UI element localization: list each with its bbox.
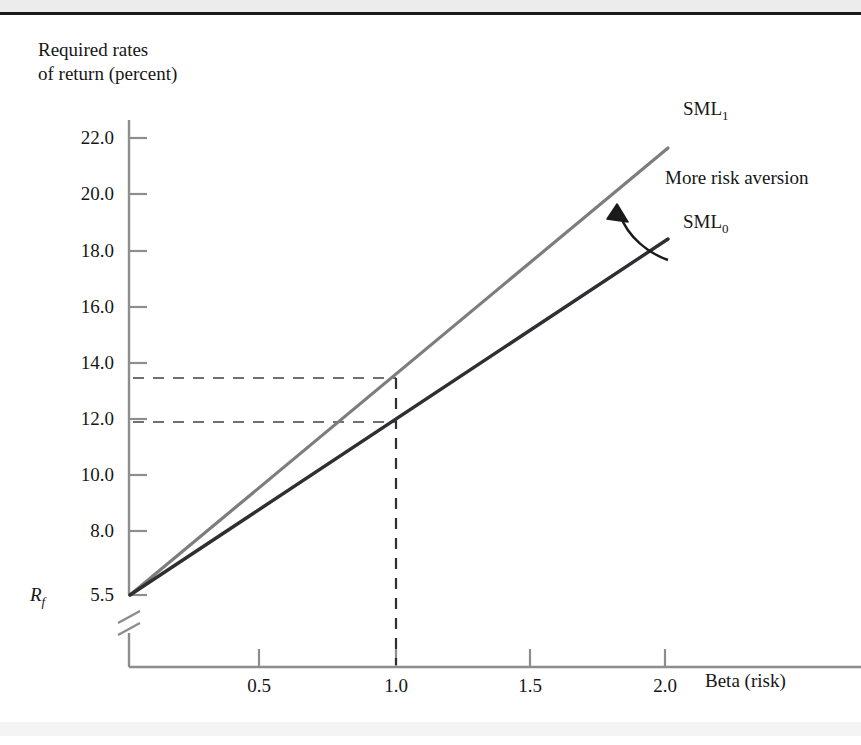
- sml0-line: [130, 239, 668, 595]
- figure-page: Required ratesof return (percent) 22.0 2…: [0, 0, 861, 745]
- axes-group: [118, 120, 861, 667]
- x-tick-label-1-5: 1.5: [500, 675, 560, 697]
- reference-lines-group: [133, 378, 396, 665]
- y-tick-label-10: 10.0: [52, 464, 114, 486]
- x-axis-title: Beta (risk): [705, 669, 786, 693]
- series-label-sml0-sub: 0: [722, 221, 729, 236]
- x-tick-label-0-5: 0.5: [229, 675, 289, 697]
- sml1-line: [130, 148, 668, 595]
- x-tick-label-1-0: 1.0: [366, 675, 426, 697]
- x-tick-label-2-0: 2.0: [635, 675, 695, 697]
- y-tick-label-12: 12.0: [52, 408, 114, 430]
- security-market-line-chart: Required ratesof return (percent) 22.0 2…: [0, 15, 861, 722]
- y-tick-label-8: 8.0: [52, 520, 114, 542]
- arrow-head: [607, 204, 628, 222]
- more-risk-aversion-arrow: [607, 204, 668, 260]
- y-tick-label-14: 14.0: [52, 352, 114, 374]
- chart-canvas: [0, 15, 861, 722]
- y-tick-label-18: 18.0: [52, 240, 114, 262]
- series-label-sml1-sub: 1: [722, 108, 729, 123]
- risk-free-rate-label: Rf: [30, 584, 45, 610]
- y-tick-label-20: 20.0: [52, 183, 114, 205]
- series-label-sml0-base: SML: [683, 211, 722, 232]
- y-tick-label-5-5: 5.5: [52, 584, 114, 606]
- y-axis-break-slash-upper: [118, 611, 140, 623]
- series-label-sml0: SML0: [683, 211, 729, 237]
- series-label-sml1: SML1: [683, 98, 729, 124]
- risk-free-symbol: R: [30, 584, 42, 605]
- page-top-band: [0, 0, 861, 12]
- y-axis-title: Required ratesof return (percent): [38, 38, 177, 87]
- x-tick-marks: [259, 649, 665, 667]
- annotation-more-risk-aversion: More risk aversion: [665, 167, 809, 189]
- series-lines-group: [130, 148, 668, 595]
- y-axis-title-line-1: Required rates: [38, 39, 148, 60]
- y-tick-label-22: 22.0: [52, 127, 114, 149]
- y-axis-title-line-2: of return (percent): [38, 63, 177, 84]
- series-label-sml1-base: SML: [683, 98, 722, 119]
- y-tick-marks: [129, 138, 147, 595]
- risk-free-subscript: f: [42, 594, 46, 609]
- page-bottom-band: [0, 722, 861, 736]
- y-tick-label-16: 16.0: [52, 296, 114, 318]
